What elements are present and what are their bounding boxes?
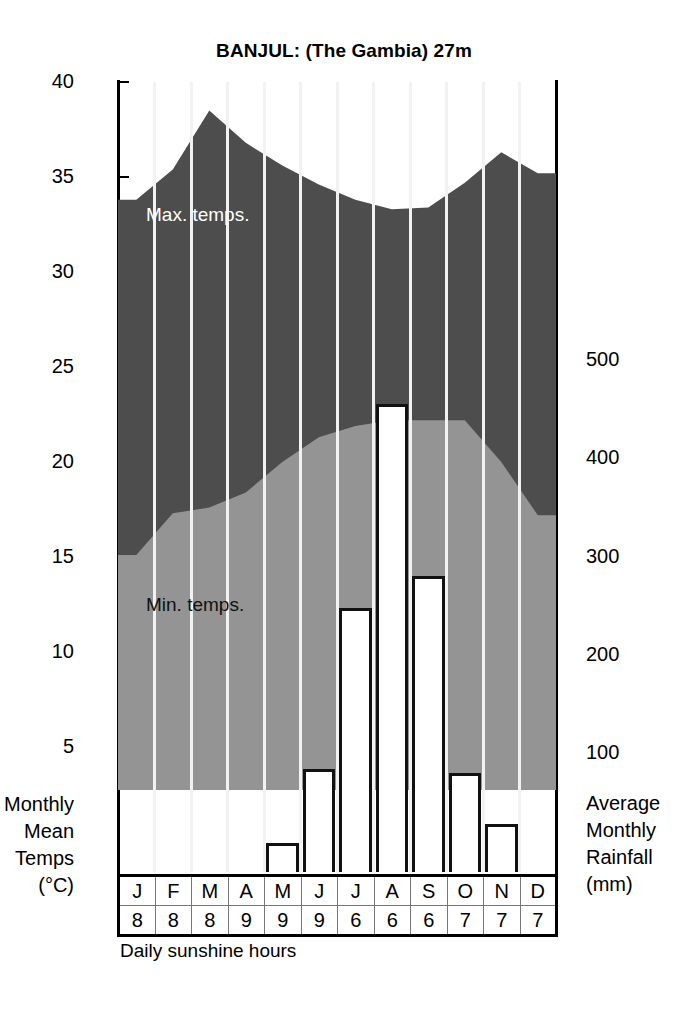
left-tick-label-20: 20: [52, 451, 74, 471]
right-tick-label-200: 200: [586, 644, 619, 664]
month-cell-J: J: [119, 876, 156, 906]
sunshine-cell-M: 8: [192, 906, 229, 936]
sunshine-cell-S: 6: [411, 906, 448, 936]
month-cell-O: O: [447, 876, 484, 906]
left-axis-caption-line-2: Mean: [0, 818, 74, 845]
data-table: JFMAMJJASOND 888999666777: [117, 874, 558, 937]
left-tick-label-40: 40: [52, 71, 74, 91]
right-tick-label-100: 100: [586, 742, 619, 762]
left-axis-caption-line-4: (°C): [0, 872, 74, 899]
left-tick-label-5: 5: [63, 736, 74, 756]
month-cell-J: J: [301, 876, 338, 906]
table-row-sunshine: 888999666777: [119, 906, 557, 936]
rainfall-bars: [118, 82, 556, 872]
sunshine-cell-N: 7: [484, 906, 521, 936]
sunshine-cell-A: 6: [374, 906, 411, 936]
right-tick-label-500: 500: [586, 349, 619, 369]
month-cell-A: A: [228, 876, 265, 906]
month-cell-A: A: [374, 876, 411, 906]
left-tick-label-25: 25: [52, 356, 74, 376]
min-temps-label: Min. temps.: [146, 594, 244, 616]
right-axis-caption: AverageMonthlyRainfall(mm): [586, 790, 688, 898]
sunshine-cell-J: 9: [301, 906, 338, 936]
sunshine-cell-F: 8: [155, 906, 192, 936]
table-row-months: JFMAMJJASOND: [119, 876, 557, 906]
left-axis-caption: MonthlyMeanTemps(°C): [0, 791, 74, 899]
left-axis-caption-line-1: Monthly: [0, 791, 74, 818]
plot-area: Max. temps. Min. temps.: [118, 82, 556, 872]
rainfall-bar-S: [412, 576, 445, 872]
sunshine-cell-O: 7: [447, 906, 484, 936]
rainfall-bar-N: [485, 824, 518, 872]
max-temps-label: Max. temps.: [146, 204, 249, 226]
footnote-label: Daily sunshine hours: [120, 940, 296, 962]
left-tick-label-15: 15: [52, 546, 74, 566]
month-cell-M: M: [192, 876, 229, 906]
month-cell-J: J: [338, 876, 375, 906]
month-cell-M: M: [265, 876, 302, 906]
right-axis-caption-line-2: Monthly: [586, 817, 688, 844]
sunshine-cell-J: 8: [119, 906, 156, 936]
sunshine-cell-J: 6: [338, 906, 375, 936]
rainfall-bar-M: [266, 843, 299, 872]
left-tick-label-10: 10: [52, 641, 74, 661]
month-cell-S: S: [411, 876, 448, 906]
page-title: BANJUL: (The Gambia) 27m: [0, 40, 688, 62]
rainfall-bar-J: [303, 769, 336, 872]
left-tick-label-30: 30: [52, 261, 74, 281]
climate-chart-figure: BANJUL: (The Gambia) 27m 403530252015105…: [0, 0, 688, 1025]
right-tick-label-400: 400: [586, 447, 619, 467]
month-cell-N: N: [484, 876, 521, 906]
sunshine-cell-M: 9: [265, 906, 302, 936]
month-cell-F: F: [155, 876, 192, 906]
rainfall-bar-O: [449, 773, 482, 872]
right-axis-caption-line-1: Average: [586, 790, 688, 817]
sunshine-cell-D: 7: [520, 906, 557, 936]
left-tick-label-35: 35: [52, 166, 74, 186]
right-axis-caption-line-3: Rainfall: [586, 844, 688, 871]
month-cell-D: D: [520, 876, 557, 906]
right-axis-caption-line-4: (mm): [586, 871, 688, 898]
rainfall-bar-J: [339, 608, 372, 872]
left-axis-caption-line-3: Temps: [0, 845, 74, 872]
sunshine-cell-A: 9: [228, 906, 265, 936]
rainfall-bar-A: [376, 404, 409, 872]
right-tick-label-300: 300: [586, 546, 619, 566]
